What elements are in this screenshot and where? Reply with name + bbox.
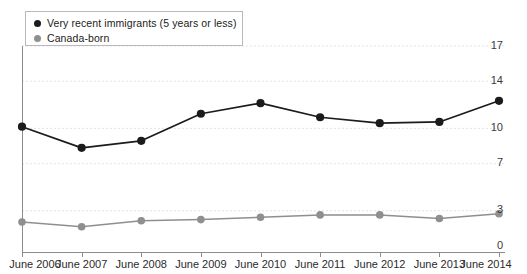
data-point-marker[interactable] bbox=[137, 137, 145, 145]
data-point-marker[interactable] bbox=[316, 113, 324, 121]
data-point-marker[interactable] bbox=[78, 144, 86, 152]
data-point-marker[interactable] bbox=[436, 215, 444, 223]
legend-marker-icon bbox=[34, 20, 41, 27]
data-point-marker[interactable] bbox=[197, 110, 205, 118]
x-axis-tick-label: June 2010 bbox=[235, 258, 286, 270]
x-axis-tick-label: June 2013 bbox=[414, 258, 465, 270]
line-chart: Very recent immigrants (5 years or less)… bbox=[0, 0, 527, 274]
x-axis-tick-label: June 2009 bbox=[175, 258, 226, 270]
data-point-marker[interactable] bbox=[18, 123, 26, 131]
data-point-marker[interactable] bbox=[316, 211, 324, 219]
y-axis-tick-label: 3 bbox=[479, 203, 503, 215]
y-axis-tick-label: 7 bbox=[479, 156, 503, 168]
data-point-marker[interactable] bbox=[376, 211, 384, 219]
x-axis-tick-label: June 2008 bbox=[116, 258, 167, 270]
x-axis-tick-label: June 2006 bbox=[9, 258, 60, 270]
legend-item-label: Canada-born bbox=[47, 32, 109, 44]
y-axis-tick-label: 10 bbox=[479, 121, 503, 133]
y-axis-tick-label: 17 bbox=[479, 39, 503, 51]
legend-item-very-recent-immigrants: Very recent immigrants (5 years or less) bbox=[34, 16, 242, 30]
series-line bbox=[22, 101, 499, 148]
data-point-marker[interactable] bbox=[78, 223, 86, 231]
legend-item-canada-born: Canada-born bbox=[34, 31, 242, 45]
x-axis-tick-label: June 2014 bbox=[460, 258, 511, 270]
data-point-marker[interactable] bbox=[197, 216, 205, 224]
data-point-marker[interactable] bbox=[257, 213, 265, 221]
data-point-marker[interactable] bbox=[256, 99, 264, 107]
x-axis-tick-label: June 2007 bbox=[56, 258, 107, 270]
x-axis-tick-label: June 2011 bbox=[295, 258, 346, 270]
y-axis-tick-label: 0 bbox=[479, 239, 503, 251]
data-point-marker[interactable] bbox=[18, 218, 26, 226]
data-point-marker[interactable] bbox=[376, 119, 384, 127]
data-point-marker[interactable] bbox=[435, 118, 443, 126]
chart-legend: Very recent immigrants (5 years or less)… bbox=[25, 11, 243, 46]
legend-item-label: Very recent immigrants (5 years or less) bbox=[47, 17, 237, 29]
legend-marker-icon bbox=[34, 35, 41, 42]
x-axis-tick-label: June 2012 bbox=[354, 258, 405, 270]
data-point-marker[interactable] bbox=[137, 217, 145, 225]
y-axis-tick-label: 14 bbox=[479, 74, 503, 86]
data-point-marker[interactable] bbox=[495, 97, 503, 105]
